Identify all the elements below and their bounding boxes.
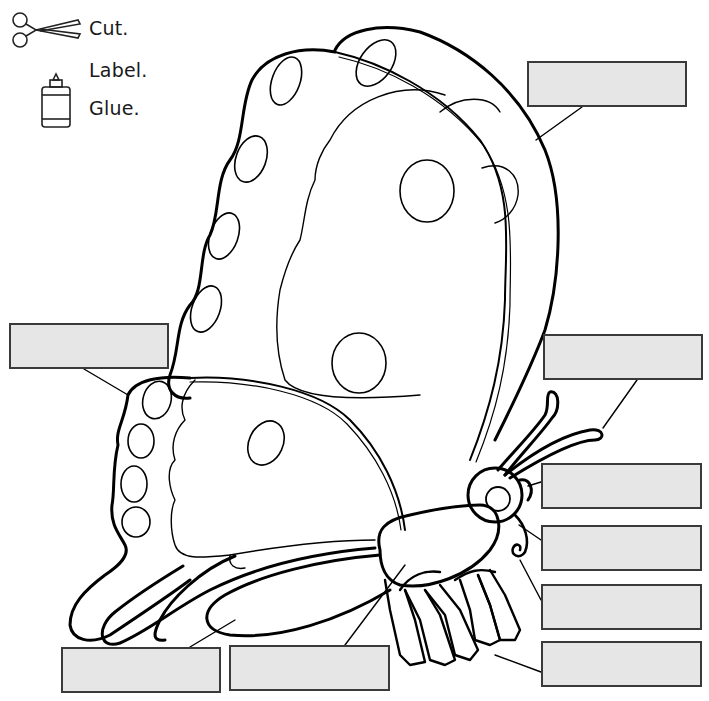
label-box-leg[interactable] (541, 641, 702, 687)
label-box-proboscis[interactable] (541, 584, 702, 630)
front-forewing (169, 50, 335, 398)
hindwing-inner-panel (169, 380, 375, 557)
proboscis (512, 515, 527, 556)
label-box-head[interactable] (541, 525, 702, 571)
label-box-thorax[interactable] (229, 645, 390, 691)
label-box-abdomen[interactable] (61, 647, 221, 693)
legs (385, 570, 520, 665)
label-box-antenna[interactable] (543, 334, 703, 380)
back-forewing (335, 28, 558, 440)
label-box-eye[interactable] (541, 463, 702, 509)
eye (486, 487, 510, 511)
forewing-inner-panel (277, 90, 445, 398)
hindwing-tail-1 (102, 548, 375, 644)
label-box-hindwing[interactable] (9, 323, 169, 369)
label-box-forewing[interactable] (527, 61, 687, 107)
